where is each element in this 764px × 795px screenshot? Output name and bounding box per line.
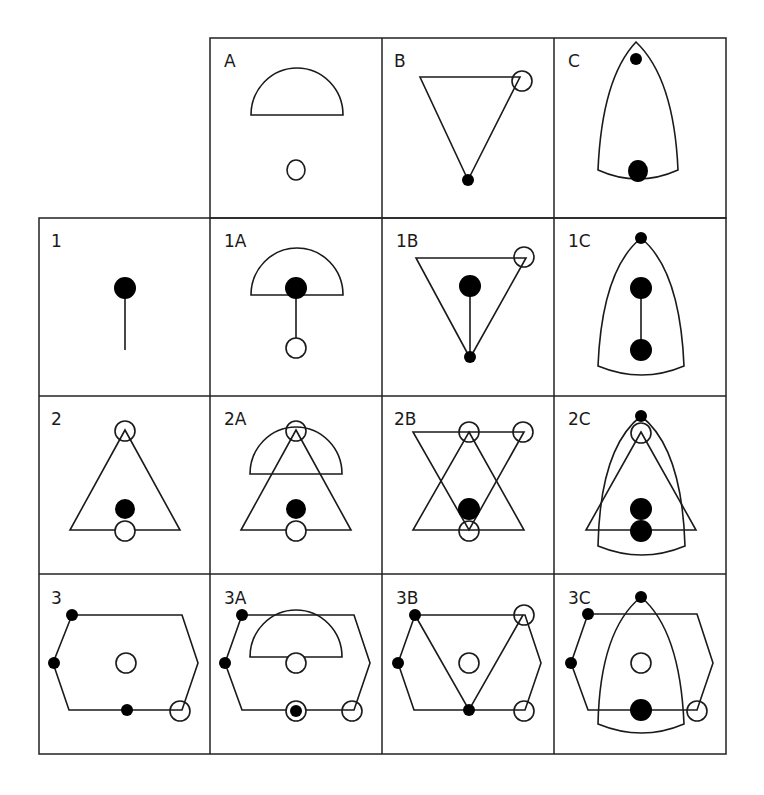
large-filled-dot bbox=[630, 699, 652, 721]
cell-label-A: A bbox=[224, 51, 236, 71]
large-filled-dot bbox=[628, 160, 648, 182]
cell-label-1A: 1A bbox=[224, 231, 247, 251]
filled-dot-left bbox=[219, 657, 231, 669]
grid-lines bbox=[39, 38, 726, 754]
filled-dot-top-left bbox=[66, 609, 78, 621]
cell-C: C bbox=[568, 42, 678, 182]
cell-label-C: C bbox=[568, 51, 580, 71]
cell-2: 2 bbox=[51, 409, 180, 541]
filled-dot-bottom bbox=[463, 704, 475, 716]
open-circle bbox=[512, 71, 532, 91]
inverted-triangle-shape bbox=[416, 258, 526, 358]
large-filled-dot bbox=[630, 339, 652, 361]
filled-dot-left bbox=[48, 657, 60, 669]
combination-grid-diagram: A B C 1 1A 1B 1C bbox=[0, 0, 764, 795]
filled-dot bbox=[462, 174, 474, 186]
filled-dot bbox=[459, 275, 481, 297]
cell-A: A bbox=[224, 51, 343, 180]
cell-label-3B: 3B bbox=[396, 588, 418, 608]
open-circle-bottom-right bbox=[342, 701, 362, 721]
semicircle-shape bbox=[250, 427, 342, 474]
open-circle-base bbox=[286, 521, 306, 541]
filled-dot bbox=[458, 498, 480, 520]
filled-dot-top-left bbox=[582, 608, 594, 620]
filled-dot bbox=[286, 499, 306, 519]
inverted-triangle-shape bbox=[420, 77, 520, 180]
cell-label-1B: 1B bbox=[396, 231, 418, 251]
cell-2C: 2C bbox=[568, 409, 696, 555]
small-filled-dot bbox=[635, 232, 647, 244]
cell-label-3C: 3C bbox=[568, 588, 591, 608]
filled-dot-left bbox=[565, 657, 577, 669]
cell-label-2: 2 bbox=[51, 409, 62, 429]
cell-1C: 1C bbox=[568, 231, 684, 375]
cell-3: 3 bbox=[48, 588, 198, 721]
cell-3A: 3A bbox=[219, 588, 370, 721]
open-circle-bottom-right bbox=[170, 701, 190, 721]
cell-label-1: 1 bbox=[51, 231, 62, 251]
small-filled-dot bbox=[635, 410, 647, 422]
cell-label-B: B bbox=[394, 51, 406, 71]
cell-3B: 3B bbox=[392, 588, 541, 721]
filled-dot bbox=[630, 277, 652, 299]
semicircle-shape bbox=[251, 68, 343, 115]
open-circle-center bbox=[459, 653, 479, 673]
filled-dot bbox=[285, 277, 307, 299]
filled-dot-left bbox=[392, 657, 404, 669]
open-circle-bottom-right bbox=[514, 701, 534, 721]
cell-1A: 1A bbox=[224, 231, 343, 358]
small-filled-dot bbox=[464, 351, 476, 363]
cell-label-3: 3 bbox=[51, 588, 62, 608]
filled-dot-top-left bbox=[236, 609, 248, 621]
open-circle-base bbox=[115, 521, 135, 541]
cell-label-2B: 2B bbox=[394, 409, 416, 429]
filled-dot-bottom bbox=[121, 704, 133, 716]
open-circle-center bbox=[116, 653, 136, 673]
filled-dot-top-left bbox=[409, 609, 421, 621]
semicircle-shape bbox=[250, 610, 342, 657]
open-circle bbox=[287, 160, 305, 180]
cell-label-1C: 1C bbox=[568, 231, 591, 251]
cell-2B: 2B bbox=[394, 409, 533, 541]
open-circle-bottom-right bbox=[687, 701, 707, 721]
cell-1B: 1B bbox=[396, 231, 534, 363]
open-circle bbox=[286, 338, 306, 358]
cell-2A: 2A bbox=[224, 409, 351, 541]
large-filled-dot bbox=[630, 520, 652, 542]
filled-dot bbox=[115, 499, 135, 519]
cell-3C: 3C bbox=[565, 588, 713, 733]
cell-label-3A: 3A bbox=[224, 588, 247, 608]
filled-dot bbox=[630, 498, 652, 520]
open-circle-center bbox=[286, 653, 306, 673]
filled-dot-bottom bbox=[290, 705, 302, 717]
open-circle bbox=[514, 247, 534, 267]
small-filled-dot bbox=[630, 53, 642, 65]
filled-dot bbox=[114, 277, 136, 299]
cell-B: B bbox=[394, 51, 532, 186]
cell-1: 1 bbox=[51, 231, 136, 350]
small-filled-dot bbox=[635, 591, 647, 603]
open-circle-center bbox=[631, 653, 651, 673]
cell-label-2A: 2A bbox=[224, 409, 247, 429]
cell-label-2C: 2C bbox=[568, 409, 591, 429]
